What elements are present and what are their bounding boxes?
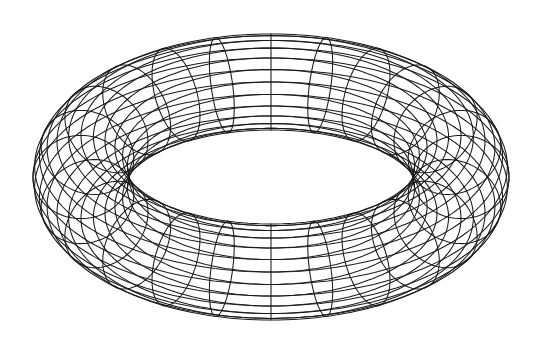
torus-wireframe [0, 0, 534, 353]
torus-meridians [33, 34, 509, 320]
